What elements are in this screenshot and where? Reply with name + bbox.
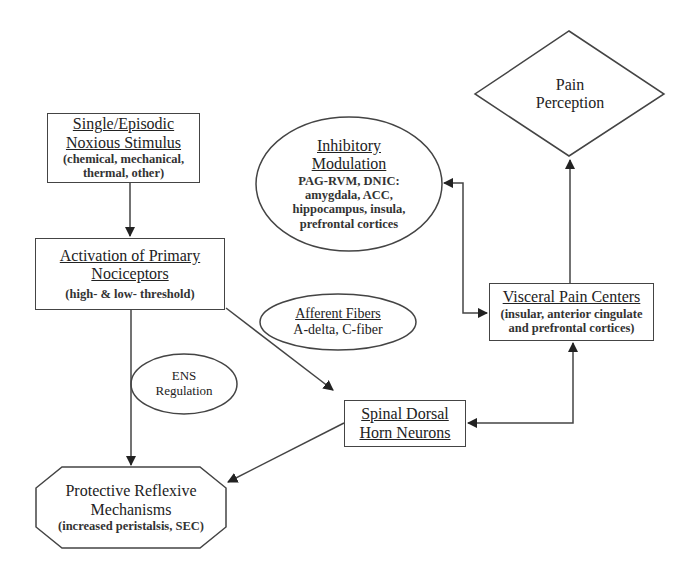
stimulus-sub-1: (chemical, mechanical, [63,152,184,166]
edge-spinal-visceral [468,343,573,423]
ens-line-1: ENS [172,369,197,384]
ens-line-2: Regulation [155,384,212,399]
inhibitory-title-1: Inhibitory [317,137,381,155]
afferent-sub-1: A-delta, C-fiber [293,322,382,338]
afferent-node: Afferent Fibers A-delta, C-fiber [270,300,406,344]
ens-node: ENS Regulation [138,362,230,406]
stimulus-title-2: Noxious Stimulus [66,134,181,152]
nociceptors-sub-1: (high- & low- threshold) [65,287,194,301]
spinal-title-1: Spinal Dorsal [361,405,449,423]
edge-inhibitory-visceral [444,183,487,313]
spinal-node: Spinal Dorsal Horn Neurons [344,400,466,447]
visceral-node: Visceral Pain Centers (insular, anterior… [489,283,654,341]
stimulus-node: Single/Episodic Noxious Stimulus (chemic… [47,113,200,183]
protective-line-2: Mechanisms [91,501,172,519]
spinal-title-2: Horn Neurons [359,424,450,442]
protective-line-1: Protective Reflexive [65,482,196,500]
stimulus-title-1: Single/Episodic [73,115,174,133]
inhibitory-title-2: Modulation [312,155,387,173]
inhibitory-sub-4: prefrontal cortices [300,217,398,231]
inhibitory-sub-2: amygdala, ACC, [305,188,393,202]
pain-perception-line-2: Perception [536,94,604,112]
stimulus-sub-2: thermal, other) [83,166,164,180]
visceral-title-1: Visceral Pain Centers [503,288,641,306]
afferent-title-1: Afferent Fibers [295,306,381,322]
edge-spinal-to-protective [228,423,344,482]
pain-perception-node: Pain Perception [510,70,630,118]
visceral-sub-1: (insular, anterior cingulate [500,307,642,321]
nociceptors-title-2: Nociceptors [91,265,168,283]
nociceptors-node: Activation of Primary Nociceptors (high-… [35,238,225,310]
inhibitory-sub-1: PAG-RVM, DNIC: [298,174,399,188]
nociceptors-title-1: Activation of Primary [60,247,200,265]
inhibitory-node: Inhibitory Modulation PAG-RVM, DNIC: amy… [262,125,436,243]
protective-node: Protective Reflexive Mechanisms (increas… [40,472,222,544]
inhibitory-sub-3: hippocampus, insula, [293,202,406,216]
protective-sub-1: (increased peristalsis, SEC) [58,519,204,533]
pain-perception-line-1: Pain [556,76,584,94]
visceral-sub-2: and prefrontal cortices) [509,321,635,335]
